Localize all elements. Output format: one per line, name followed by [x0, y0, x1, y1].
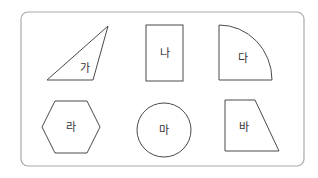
shape-ra: 라 — [42, 101, 100, 153]
shapes-diagram: 가 나 다 라 마 바 — [0, 0, 318, 178]
shape-na: 나 — [146, 25, 183, 81]
shape-label-ba: 바 — [239, 121, 249, 134]
shape-label-ma: 마 — [159, 124, 169, 137]
shape-ma: 마 — [137, 103, 191, 157]
shape-label-da: 다 — [238, 52, 248, 65]
shape-label-ra: 라 — [66, 121, 76, 134]
shape-label-na: 나 — [160, 47, 170, 60]
shape-label-ga: 가 — [80, 62, 90, 75]
